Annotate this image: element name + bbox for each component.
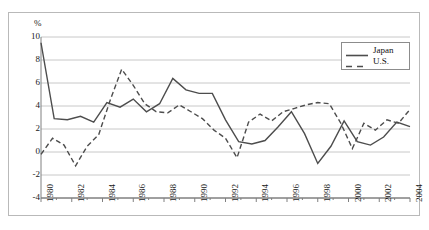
x-tick-label: 1988 — [168, 184, 178, 202]
legend-key-solid — [345, 46, 369, 55]
legend-key-dashed — [345, 57, 369, 66]
x-tick-label: 1994 — [260, 184, 270, 202]
x-axis-tick-labels: 1980198219841986198819901992199419961998… — [0, 0, 429, 230]
legend-item-japan: Japan — [345, 45, 406, 56]
legend-item-us: U.S. — [345, 56, 406, 67]
x-tick-label: 1980 — [45, 184, 55, 202]
x-tick-label: 1986 — [137, 184, 147, 202]
x-tick-label: 1990 — [199, 184, 209, 202]
legend-label-us: U.S. — [373, 56, 389, 67]
chart-legend: Japan U.S. — [341, 42, 410, 70]
x-tick-label: 1984 — [107, 184, 117, 202]
legend-label-japan: Japan — [373, 45, 394, 56]
x-tick-label: 2002 — [383, 184, 393, 202]
x-tick-label: 1996 — [291, 184, 301, 202]
x-tick-label: 2004 — [414, 184, 424, 202]
x-tick-label: 1998 — [322, 184, 332, 202]
x-tick-label: 2000 — [353, 184, 363, 202]
y-axis-unit-label: % — [34, 18, 42, 28]
x-tick-label: 1982 — [76, 184, 86, 202]
x-tick-label: 1992 — [230, 184, 240, 202]
